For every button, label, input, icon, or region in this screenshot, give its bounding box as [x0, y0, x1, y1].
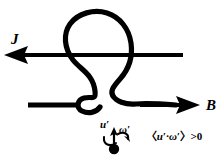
flux-tube-lower-strand — [113, 96, 176, 105]
vorticity-fluctuation-label: ω′ — [119, 124, 130, 135]
current-vector-label: J — [11, 32, 19, 47]
figure-canvas: J B u′ ω′ 〈u′·ω′〉>0 — [0, 0, 221, 163]
helicity-bracket-open: 〈 — [146, 130, 157, 142]
current-arrow-j — [4, 46, 183, 64]
magnetic-field-vector-label: B — [206, 98, 216, 113]
helicity-bracket-close: 〉 — [180, 130, 191, 142]
helicity-inequality: >0 — [191, 130, 202, 142]
knotted-flux-tube — [65, 11, 176, 112]
fluid-parcel-dot — [109, 144, 119, 154]
flux-tube-main-strand — [65, 11, 131, 112]
velocity-fluctuation-label: u′ — [100, 119, 109, 130]
helicity-u-term: u′ — [157, 130, 166, 142]
helicity-condition-label: 〈u′·ω′〉>0 — [146, 131, 202, 142]
helicity-omega-term: ω′ — [169, 130, 180, 142]
